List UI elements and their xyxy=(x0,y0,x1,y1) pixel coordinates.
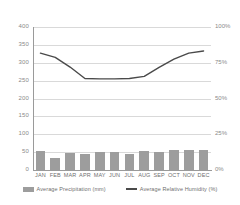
humidity-line xyxy=(33,27,211,170)
left-axis-tick: 250 xyxy=(0,77,29,83)
left-axis-tick: 150 xyxy=(0,112,29,118)
x-axis-tick: SEP xyxy=(152,172,167,178)
x-axis-tick: MAR xyxy=(63,172,78,178)
left-axis-tick: 50 xyxy=(0,148,29,154)
x-axis-tick: DEC xyxy=(196,172,211,178)
x-axis-tick: APR xyxy=(78,172,93,178)
bar-swatch-icon xyxy=(23,187,34,192)
left-axis-tick: 300 xyxy=(0,59,29,65)
line-swatch-icon xyxy=(126,188,137,190)
legend-item-precipitation: Average Precipitation (mm) xyxy=(23,186,106,192)
x-axis-tick: JUL xyxy=(122,172,137,178)
x-axis-tick: OCT xyxy=(167,172,182,178)
right-axis-tick: 50% xyxy=(215,95,239,101)
x-axis-tick: JAN xyxy=(33,172,48,178)
left-axis-tick: 200 xyxy=(0,95,29,101)
x-axis-tick: JUN xyxy=(107,172,122,178)
legend-label-precipitation: Average Precipitation (mm) xyxy=(37,186,106,192)
legend-label-humidity: Average Relative Humidity (%) xyxy=(140,186,218,192)
x-axis-tick: NOV xyxy=(181,172,196,178)
climate-combo-chart: 050100150200250300350400 0%25%50%75%100%… xyxy=(0,0,240,205)
x-axis-tick: MAY xyxy=(92,172,107,178)
right-axis-tick: 75% xyxy=(215,59,239,65)
legend-item-humidity: Average Relative Humidity (%) xyxy=(126,186,218,192)
right-axis-tick: 0% xyxy=(215,166,239,172)
left-axis-tick: 400 xyxy=(0,23,29,29)
x-axis-tick: FEB xyxy=(48,172,63,178)
right-axis-tick: 25% xyxy=(215,130,239,136)
left-axis-tick: 350 xyxy=(0,41,29,47)
plot-area xyxy=(33,27,211,170)
chart-legend: Average Precipitation (mm) Average Relat… xyxy=(0,186,240,192)
left-axis-tick: 0 xyxy=(0,166,29,172)
bottom-axis-line xyxy=(33,170,212,171)
right-axis-tick: 100% xyxy=(215,23,239,29)
x-axis-tick: AUG xyxy=(137,172,152,178)
left-axis-tick: 100 xyxy=(0,130,29,136)
